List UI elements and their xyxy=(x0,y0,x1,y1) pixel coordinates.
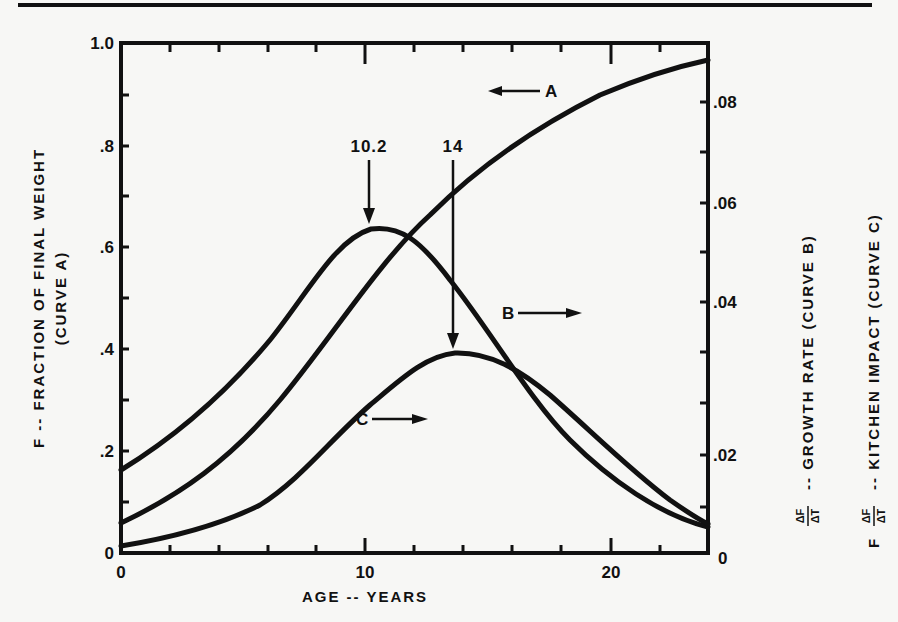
y-right-title-c-prefix: F xyxy=(865,537,882,548)
x-axis-title: AGE -- YEARS xyxy=(302,588,428,605)
arrow-down-icon xyxy=(447,333,459,349)
y-left-tick-0.4: .4 xyxy=(100,340,115,359)
y-right-title-b-text: -- GROWTH RATE (CURVE B) xyxy=(799,234,816,490)
curve-a-fraction-final-weight xyxy=(121,60,708,523)
curve-a-label: A xyxy=(545,82,558,101)
callout-14: 14 xyxy=(443,137,464,349)
y-right-tick-0.04: .04 xyxy=(713,293,737,312)
y-left-tick-1.0: 1.0 xyxy=(90,34,114,53)
callout-c-peak-label: 14 xyxy=(443,137,464,156)
fraction-num: ΔF xyxy=(860,508,872,523)
x-axis-ticks-bottom xyxy=(170,538,660,553)
plot-frame xyxy=(121,43,708,553)
x-tick-label-20: 20 xyxy=(602,563,621,582)
y-right-tick-0.02: .02 xyxy=(713,446,737,465)
y-left-title-line1: F -- FRACTION OF FINAL WEIGHT xyxy=(30,148,47,448)
callout-b-peak-label: 10.2 xyxy=(350,137,387,156)
curve-b-growth-rate xyxy=(121,228,708,527)
y-left-axis-title: F -- FRACTION OF FINAL WEIGHT (CURVE A) xyxy=(30,148,69,448)
y-right-title-c-text: -- KITCHEN IMPACT (CURVE C) xyxy=(865,213,882,490)
arrow-down-icon xyxy=(363,208,375,224)
arrow-right-icon xyxy=(566,308,582,318)
y-right-axis-title-b: ΔF ΔT -- GROWTH RATE (CURVE B) xyxy=(794,234,821,526)
curve-c-kitchen-impact xyxy=(121,353,708,546)
x-tick-label-0: 0 xyxy=(116,563,125,582)
y-left-tick-0.6: .6 xyxy=(100,238,114,257)
y-right-tick-0.08: .08 xyxy=(713,93,737,112)
y-right-axis-title-c: F ΔF ΔT -- KITCHEN IMPACT (CURVE C) xyxy=(860,213,887,548)
y-left-title-line2: (CURVE A) xyxy=(52,251,69,346)
fraction-den: ΔT xyxy=(809,508,821,523)
fraction-den: ΔT xyxy=(875,508,887,523)
x-axis-ticks-top xyxy=(170,43,660,64)
fraction-num: ΔF xyxy=(794,508,806,523)
chart-canvas: 0 10 20 1.0 .8 .6 .4 .2 0 .08 .06 .04 .0… xyxy=(0,0,898,622)
label-curve-c: C xyxy=(356,410,428,429)
arrow-left-icon xyxy=(488,86,502,96)
y-left-tick-0: 0 xyxy=(105,544,114,563)
y-right-tick-0: 0 xyxy=(718,549,727,568)
arrow-right-icon xyxy=(412,414,428,424)
curve-c-label: C xyxy=(356,410,369,429)
callout-10-2: 10.2 xyxy=(350,137,387,224)
label-curve-a: A xyxy=(488,82,558,101)
y-right-tick-0.06: .06 xyxy=(713,194,737,213)
x-tick-label-10: 10 xyxy=(356,563,375,582)
y-left-tick-0.2: .2 xyxy=(100,442,114,461)
curve-b-label: B xyxy=(502,304,515,323)
label-curve-b: B xyxy=(502,304,582,323)
y-left-tick-0.8: .8 xyxy=(100,137,114,156)
